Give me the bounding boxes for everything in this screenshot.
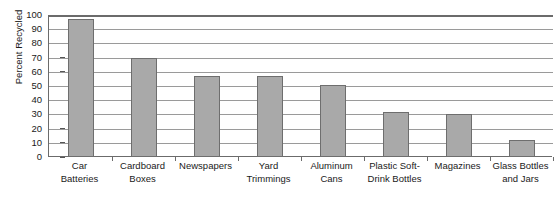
y-tick-label: 30 <box>16 108 42 120</box>
bar-slot <box>301 15 364 157</box>
bar-slot <box>175 15 238 157</box>
bar-slot <box>427 15 490 157</box>
y-tick-label: 80 <box>16 37 42 49</box>
x-tick-label-line: and Jars <box>483 173 558 186</box>
y-tick-label: 70 <box>16 52 42 64</box>
bar[interactable] <box>509 140 535 157</box>
y-tick-label: 10 <box>16 137 42 149</box>
chart-title <box>0 0 560 4</box>
bar-slot <box>490 15 553 157</box>
y-tick-label: 20 <box>16 123 42 135</box>
x-tick-label-line: Drink Bottles <box>357 173 432 186</box>
x-tick-label: Glass Bottlesand Jars <box>483 160 558 185</box>
bar[interactable] <box>194 76 220 157</box>
bar-series <box>49 15 553 157</box>
y-tick-label: 0 <box>16 151 42 163</box>
y-tick-label: 100 <box>16 9 42 21</box>
plot-area <box>48 15 552 157</box>
bar-slot <box>364 15 427 157</box>
bar[interactable] <box>383 112 409 157</box>
y-tick-label: 50 <box>16 80 42 92</box>
y-axis-tick-labels: 1009080706050403020100 <box>16 15 42 157</box>
x-axis-tick-labels: CarBatteriesCardboardBoxesNewspapersYard… <box>48 160 552 200</box>
x-tick-label-line: Glass Bottles <box>483 160 558 173</box>
x-tick-label-line: Boxes <box>105 173 180 186</box>
bar[interactable] <box>446 114 472 157</box>
bar[interactable] <box>68 19 94 157</box>
y-tick-label: 90 <box>16 23 42 35</box>
bar[interactable] <box>257 76 283 157</box>
y-tick-label: 40 <box>16 94 42 106</box>
bar-slot <box>112 15 175 157</box>
bar-slot <box>238 15 301 157</box>
chart-screenshot: Percent Recycled 1009080706050403020100 … <box>0 0 560 208</box>
bar[interactable] <box>131 58 157 157</box>
y-tick-label: 60 <box>16 66 42 78</box>
bar-slot <box>49 15 112 157</box>
bar[interactable] <box>320 85 346 157</box>
